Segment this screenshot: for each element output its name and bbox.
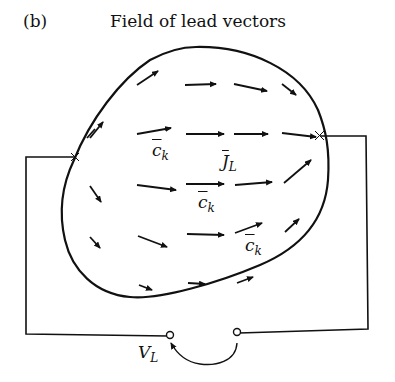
label-ck-3: ck <box>245 235 262 258</box>
figure-title: Field of lead vectors <box>110 11 286 31</box>
label-ck-2: ck <box>198 192 215 215</box>
label-jl: JL <box>222 151 237 174</box>
lead-vector-field <box>87 71 316 290</box>
panel-label: (b) <box>23 11 47 31</box>
lead-field-diagram: (b) Field of lead vectors ck JL ck ck VL <box>0 0 395 382</box>
terminal-right <box>234 329 241 336</box>
left-lead-wire <box>26 157 168 336</box>
label-ck-1: ck <box>152 140 169 163</box>
label-vl: VL <box>138 342 158 365</box>
diagram-canvas <box>0 0 395 382</box>
terminal-left <box>167 332 174 339</box>
voltage-arc-arrow <box>171 343 237 364</box>
